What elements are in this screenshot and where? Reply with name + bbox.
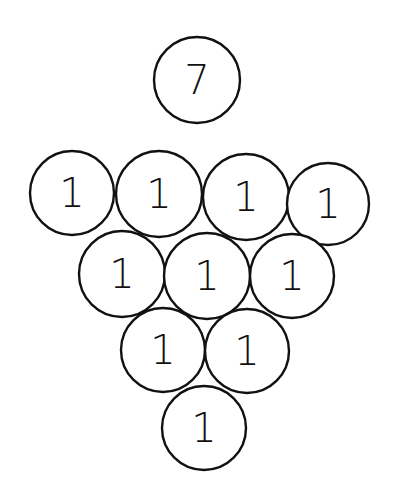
ball-label: 1 <box>191 405 216 451</box>
ball: 1 <box>164 233 250 319</box>
ball-label: 1 <box>150 327 175 373</box>
ball-diagram: 7 1111111111 <box>0 0 402 499</box>
rack-row-4: 1 <box>162 386 246 470</box>
rack-row-1: 1111 <box>30 151 369 245</box>
ball: 1 <box>250 234 334 318</box>
rack: 1111111111 <box>30 151 369 470</box>
ball-label: 7 <box>184 57 209 103</box>
ball-label: 1 <box>279 253 304 299</box>
ball-label: 1 <box>233 174 258 220</box>
rack-row-3: 11 <box>121 308 289 393</box>
ball: 1 <box>30 151 114 235</box>
ball: 1 <box>205 309 289 393</box>
ball-label: 1 <box>109 251 134 297</box>
ball-label: 1 <box>59 170 84 216</box>
rack-row-2: 111 <box>79 231 334 319</box>
ball: 1 <box>287 163 369 245</box>
ball: 1 <box>162 386 246 470</box>
top-ball: 7 <box>154 37 240 123</box>
ball-label: 1 <box>194 253 219 299</box>
ball: 1 <box>116 151 202 237</box>
ball: 1 <box>203 154 289 240</box>
ball-label: 1 <box>234 328 259 374</box>
ball-label: 1 <box>146 171 171 217</box>
ball: 1 <box>79 231 165 317</box>
ball-label: 1 <box>315 181 340 227</box>
ball: 1 <box>121 308 205 392</box>
